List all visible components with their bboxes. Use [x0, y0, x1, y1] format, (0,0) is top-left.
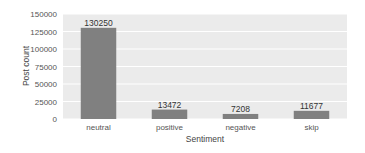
- bar-value-label: 13472: [158, 100, 182, 110]
- x-axis-label: Sentiment: [186, 134, 225, 144]
- bar-value-label: 130250: [84, 18, 113, 28]
- bar-neutral: [81, 28, 117, 119]
- x-tick-label: negative: [225, 123, 256, 132]
- bar-chart: 0250005000075000100000125000150000 13025…: [0, 0, 365, 153]
- bar-skip: [294, 111, 330, 119]
- y-axis-ticks: 0250005000075000100000125000150000: [30, 10, 57, 124]
- y-tick-label: 150000: [30, 10, 57, 19]
- x-axis-ticks: neutralpositivenegativeskip: [86, 123, 319, 132]
- bar-value-label: 7208: [231, 104, 250, 114]
- y-axis-label: Post count: [21, 45, 31, 86]
- y-tick-label: 100000: [30, 45, 57, 54]
- x-tick-label: neutral: [86, 123, 111, 132]
- y-tick-label: 25000: [35, 98, 58, 107]
- bar-value-label: 11677: [300, 101, 323, 111]
- bar-positive: [152, 110, 188, 119]
- y-tick-label: 50000: [35, 80, 58, 89]
- y-tick-label: 125000: [30, 28, 57, 37]
- x-tick-label: positive: [156, 123, 184, 132]
- y-tick-label: 0: [53, 115, 58, 124]
- x-tick-label: skip: [304, 123, 319, 132]
- y-tick-label: 75000: [35, 63, 58, 72]
- bar-negative: [223, 114, 259, 119]
